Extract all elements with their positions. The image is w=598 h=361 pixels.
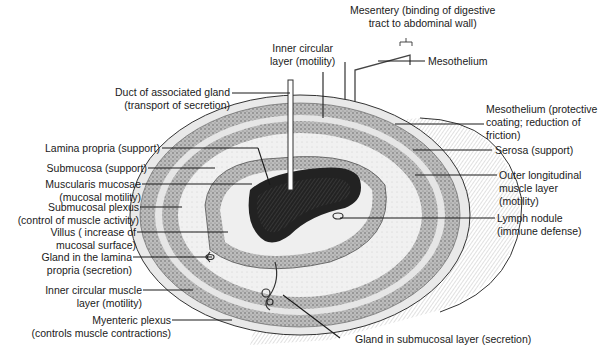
label-gland-lamina: Gland in the lamina propria (secretion) <box>20 251 132 277</box>
label-inner-circular-left: Inner circular muscle layer (motility) <box>20 284 142 310</box>
label-outer-longitudinal: Outer longitudinal muscle layer (motilit… <box>499 169 581 208</box>
label-serosa: Serosa (support) <box>495 144 573 157</box>
label-submucosa: Submucosa (support) <box>20 162 147 175</box>
label-duct: Duct of associated gland (transport of s… <box>110 86 230 112</box>
label-villus: Villus ( increase of mucosal surface) <box>20 226 136 252</box>
label-lamina-propria: Lamina propria (support) <box>20 142 160 155</box>
label-mesothelium-protective: Mesothelium (protective coating; reducti… <box>486 103 597 142</box>
mesentery-shape <box>345 38 412 108</box>
label-inner-circular-top: Inner circular layer (motility) <box>270 42 335 68</box>
label-submucosal-plexus: Submucosal plexus (control of muscle act… <box>2 201 139 227</box>
label-mesothelium-top: Mesothelium <box>428 55 488 68</box>
label-lymph-nodule: Lymph nodule (immune defense) <box>497 212 582 238</box>
label-myenteric-plexus: Myenteric plexus (controls muscle contra… <box>2 314 171 340</box>
label-mesentery: Mesentery (binding of digestive tract to… <box>350 4 495 30</box>
duct <box>288 80 293 190</box>
label-gland-submucosal: Gland in submucosal layer (secretion) <box>355 333 531 346</box>
